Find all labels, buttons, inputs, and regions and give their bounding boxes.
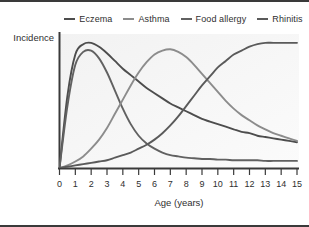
y-axis-label: Incidence xyxy=(13,32,54,43)
x-tick-label: 5 xyxy=(136,179,141,189)
x-tick-label: 2 xyxy=(89,179,94,189)
x-tick-label: 1 xyxy=(73,179,78,189)
chart-svg: Incidence 0123456789101112131415 Age (ye… xyxy=(0,30,309,227)
legend-label: Food allergy xyxy=(196,14,247,25)
figure-top-rule xyxy=(0,0,309,2)
line-dash-icon xyxy=(181,18,192,20)
x-tick-label: 11 xyxy=(229,179,238,189)
legend-label: Rhinitis xyxy=(272,14,302,25)
x-tick-label: 15 xyxy=(292,179,302,189)
x-axis-ticks: 0123456789101112131415 xyxy=(57,168,302,189)
x-tick-label: 12 xyxy=(244,179,254,189)
x-tick-label: 4 xyxy=(120,179,125,189)
line-dash-icon xyxy=(123,18,134,20)
x-tick-label: 10 xyxy=(213,179,223,189)
chart-legend: EczemaAsthmaFood allergyRhinitis xyxy=(0,11,309,27)
legend-item-rhinitis[interactable]: Rhinitis xyxy=(257,14,302,25)
x-tick-label: 9 xyxy=(199,179,204,189)
figure-container: EczemaAsthmaFood allergyRhinitis Inciden… xyxy=(0,0,309,227)
legend-label: Asthma xyxy=(138,14,169,25)
x-axis-label: Age (years) xyxy=(154,197,203,208)
x-tick-label: 14 xyxy=(276,179,286,189)
x-tick-label: 13 xyxy=(260,179,270,189)
line-dash-icon xyxy=(64,18,75,20)
legend-item-food-allergy[interactable]: Food allergy xyxy=(181,14,247,25)
x-tick-label: 7 xyxy=(168,179,173,189)
plot-area: Incidence 0123456789101112131415 Age (ye… xyxy=(0,30,309,227)
x-tick-label: 6 xyxy=(152,179,157,189)
legend-item-asthma[interactable]: Asthma xyxy=(123,14,169,25)
x-tick-label: 3 xyxy=(104,179,109,189)
x-tick-label: 8 xyxy=(184,179,189,189)
x-tick-label: 0 xyxy=(57,179,62,189)
line-dash-icon xyxy=(257,18,268,20)
legend-item-eczema[interactable]: Eczema xyxy=(64,14,112,25)
legend-label: Eczema xyxy=(79,14,112,25)
